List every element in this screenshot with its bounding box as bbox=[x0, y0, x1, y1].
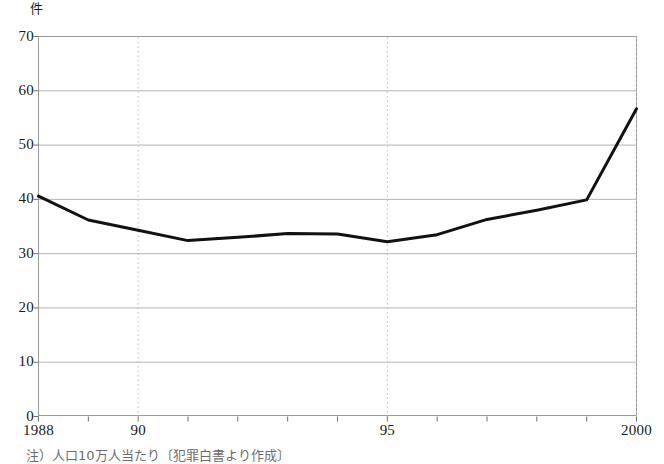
x-tick-label: 95 bbox=[380, 422, 395, 438]
chart-footnote: 注）人口10万人当たり〔犯罪白書より作成〕 bbox=[26, 448, 290, 463]
x-tick-label: 1988 bbox=[23, 422, 54, 438]
x-tick-label: 90 bbox=[130, 422, 145, 438]
line-chart: 件 010203040506070 198890952000 注）人口10万人当… bbox=[0, 0, 664, 464]
x-tick-label: 2000 bbox=[621, 422, 652, 438]
x-axis-tick-labels: 198890952000 bbox=[0, 0, 664, 464]
